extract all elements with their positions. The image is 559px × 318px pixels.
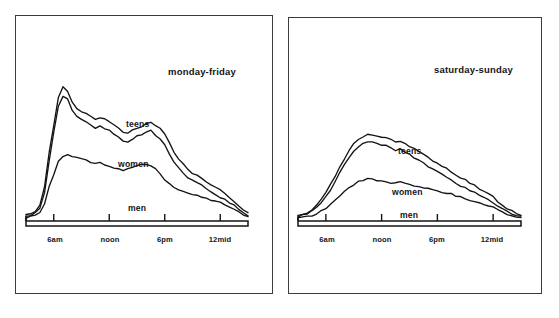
- tick-label-weekend-6pm: 6pm: [429, 235, 445, 244]
- tick-label-weekend-6am: 6am: [319, 235, 335, 244]
- series-label-teens-weekend: teens: [398, 146, 421, 156]
- tick-label-weekday-12mid: 12mid: [209, 235, 231, 244]
- panel-title-monday-friday: monday-friday: [168, 66, 236, 77]
- panel-title-saturday-sunday: saturday-sunday: [434, 64, 513, 75]
- series-label-men-weekday: men: [128, 203, 146, 213]
- tick-label-weekday-6am: 6am: [47, 235, 63, 244]
- series-label-men-weekend: men: [400, 210, 418, 220]
- panel-monday-friday: [15, 15, 273, 294]
- series-label-teens-weekday: teens: [126, 119, 149, 129]
- series-label-women-weekend: women: [392, 187, 423, 197]
- tick-label-weekend-noon: noon: [373, 235, 392, 244]
- tick-label-weekday-6pm: 6pm: [157, 235, 173, 244]
- tick-label-weekday-noon: noon: [101, 235, 120, 244]
- series-label-women-weekday: women: [118, 159, 149, 169]
- figure-container: monday-friday saturday-sunday teens wome…: [0, 0, 559, 318]
- tick-label-weekend-12mid: 12mid: [481, 235, 503, 244]
